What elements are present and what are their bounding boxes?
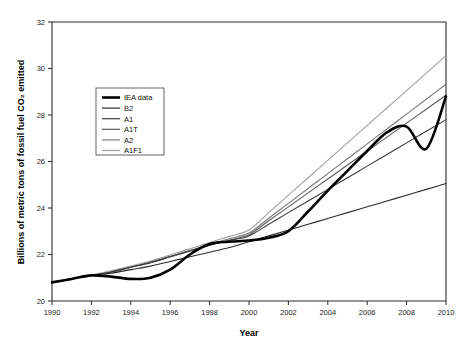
y-tick-label: 22 — [37, 250, 45, 259]
y-tick-label: 28 — [37, 111, 45, 120]
legend-label-a1t[interactable]: A1T — [124, 125, 138, 134]
x-tick-label: 1998 — [201, 308, 218, 317]
x-tick-label: 2008 — [398, 308, 415, 317]
legend-label-a2[interactable]: A2 — [124, 136, 133, 145]
y-tick-label: 26 — [37, 157, 45, 166]
axes — [48, 22, 446, 305]
legend-label-iea-data[interactable]: IEA data — [124, 93, 153, 102]
legend[interactable]: IEA dataB2A1A1TA2A1F1 — [96, 88, 164, 155]
y-axis-title: Billions of metric tons of fossil fuel C… — [16, 60, 26, 265]
y-tick-label: 30 — [37, 64, 45, 73]
x-tick-label: 2000 — [241, 308, 258, 317]
x-tick-label: 2010 — [438, 308, 455, 317]
y-tick-label: 20 — [37, 297, 45, 306]
x-tick-label: 1996 — [162, 308, 179, 317]
legend-label-b2[interactable]: B2 — [124, 104, 133, 113]
y-tick-label: 24 — [37, 204, 45, 213]
tick-labels: 2022242628303219901992199419961998200020… — [37, 18, 455, 317]
x-tick-label: 2002 — [280, 308, 297, 317]
x-tick-label: 1992 — [83, 308, 100, 317]
legend-label-a1f1[interactable]: A1F1 — [124, 146, 142, 155]
x-tick-label: 2004 — [319, 308, 336, 317]
chart-figure: 2022242628303219901992199419961998200020… — [0, 0, 464, 350]
x-axis-title: Year — [239, 328, 259, 338]
x-tick-label: 2006 — [359, 308, 376, 317]
x-tick-label: 1994 — [122, 308, 139, 317]
x-tick-label: 1990 — [44, 308, 61, 317]
y-tick-label: 32 — [37, 18, 45, 27]
line-chart: 2022242628303219901992199419961998200020… — [0, 0, 464, 350]
legend-label-a1[interactable]: A1 — [124, 115, 133, 124]
